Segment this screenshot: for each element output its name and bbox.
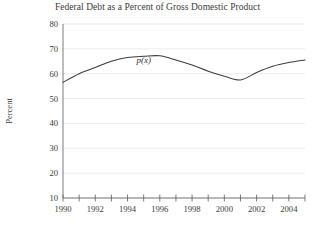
y-axis-ticks-group: 1020304050607080 <box>49 19 58 203</box>
x-tick-label: 1992 <box>87 204 104 214</box>
x-tick-label: 1996 <box>151 204 169 214</box>
y-tick-label: 20 <box>49 168 58 178</box>
y-tick-label: 40 <box>49 118 58 128</box>
x-tick-label: 2000 <box>216 204 233 214</box>
y-tick-label: 80 <box>49 19 58 29</box>
y-tick-label: 50 <box>49 94 58 104</box>
data-series-line <box>63 56 305 83</box>
x-tick-label: 1998 <box>183 204 200 214</box>
x-tick-label: 1990 <box>54 204 71 214</box>
y-tick-label: 10 <box>49 193 58 203</box>
y-tick-label: 30 <box>49 143 58 153</box>
x-axis-ticks-group: 19901992199419961998200020022004 <box>54 195 305 215</box>
gridlines-group <box>63 24 305 198</box>
y-tick-label: 60 <box>49 69 58 79</box>
x-tick-label: 1994 <box>119 204 137 214</box>
y-tick-label: 70 <box>49 44 58 54</box>
plot-area: 1020304050607080 19901992199419961998200… <box>0 0 315 229</box>
x-tick-label: 2002 <box>248 204 265 214</box>
chart-figure: Federal Debt as a Percent of Gross Domes… <box>0 0 315 229</box>
series-annotation-p-of-x: p(x) <box>135 55 151 65</box>
x-tick-label: 2004 <box>280 204 298 214</box>
